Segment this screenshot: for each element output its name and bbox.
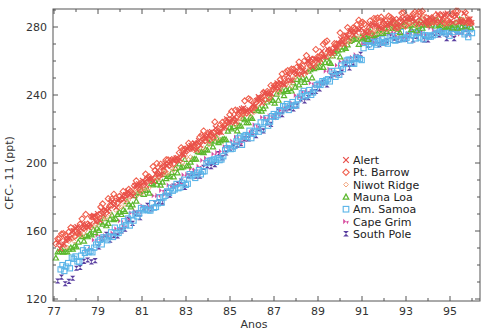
x-tick-label: 89 — [311, 305, 325, 318]
data-point — [89, 259, 94, 264]
legend-item-label: Cape Grim — [353, 216, 412, 229]
data-point — [53, 255, 58, 260]
legend-item-label: South Pole — [353, 228, 411, 241]
data-point — [85, 257, 90, 262]
data-point — [159, 188, 164, 193]
x-tick-label: 93 — [399, 305, 413, 318]
data-point — [59, 275, 64, 280]
legend-item-label: Niwot Ridge — [353, 179, 419, 192]
x-tick-label: 95 — [443, 305, 457, 318]
y-tick-label: 160 — [26, 225, 47, 238]
data-point — [338, 54, 343, 59]
x-tick-label: 79 — [91, 305, 105, 318]
data-point — [356, 42, 361, 47]
x-tick-label: 87 — [267, 305, 281, 318]
x-tick-label: 91 — [355, 305, 369, 318]
x-tick-label: 85 — [223, 305, 237, 318]
data-point — [93, 258, 98, 263]
y-axis-title: CFC- 11 (ppt) — [3, 136, 16, 210]
legend-item-label: Pt. Barrow — [353, 166, 410, 179]
y-tick-label: 280 — [26, 21, 47, 34]
data-point — [321, 65, 326, 70]
data-point — [212, 119, 218, 125]
x-tick-label: 81 — [135, 305, 149, 318]
data-point — [65, 260, 70, 265]
data-point — [253, 122, 258, 127]
x-tick-label: 77 — [47, 305, 61, 318]
data-point — [83, 211, 89, 217]
data-point — [70, 276, 75, 281]
data-point — [313, 46, 319, 52]
data-point — [155, 193, 160, 198]
legend-item-label: Am. Samoa — [353, 203, 416, 216]
x-tick-label: 83 — [179, 305, 193, 318]
data-point — [78, 265, 83, 270]
data-point — [309, 75, 314, 80]
y-tick-label: 240 — [26, 89, 47, 102]
x-axis-title: Anos — [241, 318, 268, 331]
data-point — [276, 98, 281, 103]
legend: AlertPt. BarrowNiwot RidgeMauna LoaAm. S… — [341, 154, 439, 241]
data-point — [74, 266, 79, 271]
data-point — [134, 198, 139, 203]
y-tick-label: 120 — [26, 293, 47, 306]
y-tick-label: 200 — [26, 157, 47, 170]
data-point — [296, 82, 301, 87]
data-point — [304, 77, 309, 82]
legend-item-label: Alert — [353, 154, 380, 167]
data-point — [67, 266, 72, 271]
legend-item-label: Mauna Loa — [353, 191, 413, 204]
cfc11-scatter-chart: 77798183858789919395 120160200240280 Ano… — [0, 0, 481, 333]
data-points — [53, 8, 475, 286]
